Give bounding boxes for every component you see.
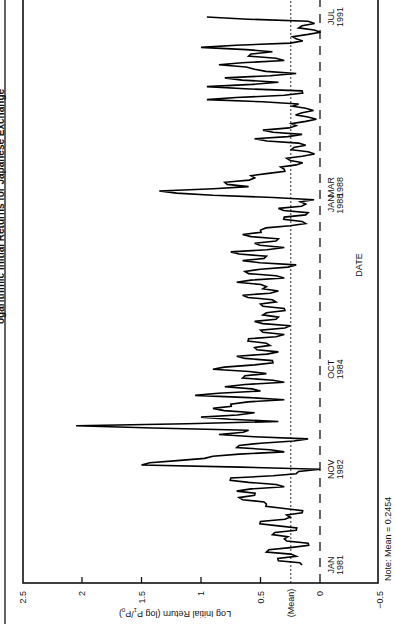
series-line — [76, 17, 321, 565]
x-tick-label: 1984 — [335, 359, 345, 379]
y-tick-label: 0 — [315, 591, 325, 596]
y-tick-label: 1 — [196, 591, 206, 596]
x-tick-label: 1982 — [335, 459, 345, 479]
rotated-chart: ogarithmic Initial Returns for Japanese … — [0, 0, 395, 624]
y-axis-title: Log Initial Return (log P1/P0) — [119, 607, 231, 619]
chart-svg: ogarithmic Initial Returns for Japanese … — [0, 0, 395, 624]
x-tick-label: 1981 — [335, 555, 345, 575]
value-axis-ticks: 2.521.510.50−0.5 — [18, 577, 385, 609]
y-tick-label: 2.5 — [18, 591, 28, 604]
y-tick-label: 1.5 — [137, 591, 147, 604]
date-axis-labels: JAN1981NOV1982OCT1984JAN1988MAR1988JUL19… — [326, 7, 345, 575]
x-axis-title: DATE — [354, 253, 364, 276]
chart-title: ogarithmic Initial Returns for Japanese … — [0, 88, 6, 324]
note-text: Note: Mean = 0.2454 — [383, 497, 393, 581]
mean-label: (Mean) — [286, 589, 296, 618]
x-tick-label: 1988 — [335, 177, 345, 197]
plot-frame — [23, 0, 378, 583]
y-tick-label: 2 — [77, 591, 87, 596]
x-tick-label: 1991 — [335, 7, 345, 27]
y-tick-label: 0.5 — [256, 591, 266, 604]
y-tick-label: −0.5 — [375, 591, 385, 609]
